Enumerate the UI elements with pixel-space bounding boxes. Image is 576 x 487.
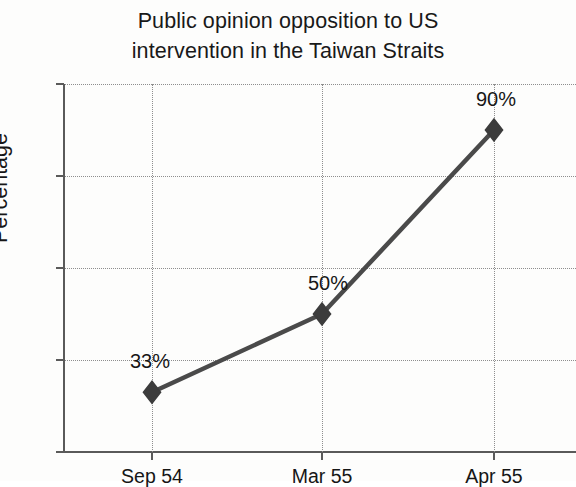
x-axis-tick-label: Mar 55 [252,465,392,487]
chart-title-line-2: intervention in the Taiwan Straits [0,36,576,66]
x-axis-tick [493,452,495,460]
y-axis-title: Percentage [0,0,12,418]
x-axis-tick [321,452,323,460]
chart-title-line-1: Public opinion opposition to US [0,6,576,36]
x-axis-tick-label: Sep 54 [82,465,222,487]
data-point-label: 33% [90,350,210,372]
chart-title: Public opinion opposition to US interven… [0,6,576,66]
data-point-label: 50% [268,272,388,294]
x-axis-tick [151,452,153,460]
series-layer [63,84,576,452]
data-point-marker[interactable] [143,381,160,403]
plot-area: 10080604020 Sep 54Mar 55Apr 55 33%50%90% [63,84,576,452]
data-point-label: 90% [436,88,556,110]
x-axis-tick-label: Apr 55 [424,465,564,487]
